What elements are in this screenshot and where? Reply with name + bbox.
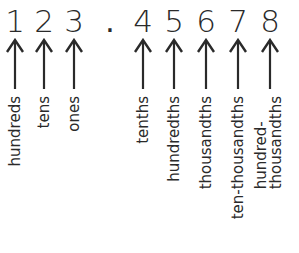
digit: 8 — [255, 4, 285, 38]
place-tenths: 4 tenths — [128, 0, 158, 253]
place-label-wrap: tenths — [128, 96, 158, 253]
digit: 1 — [0, 4, 30, 38]
place-label-wrap: ones — [59, 96, 89, 253]
place-label: hundredths — [167, 96, 182, 182]
up-arrow-icon — [64, 38, 84, 90]
up-arrow-icon — [34, 38, 54, 90]
place-hundredths: 5 hundredths — [159, 0, 189, 253]
digit: 6 — [191, 4, 221, 38]
place-label-wrap: tens — [29, 96, 59, 253]
up-arrow-icon — [196, 38, 216, 90]
digit: 7 — [223, 4, 253, 38]
up-arrow-icon — [133, 38, 153, 90]
digit: 3 — [59, 4, 89, 38]
place-label-wrap: hundredths — [159, 96, 189, 253]
decimal-point: . — [100, 4, 120, 38]
place-label: hundreds — [8, 96, 23, 166]
place-label-wrap: ten-thousandths — [223, 96, 253, 253]
up-arrow-icon — [228, 38, 248, 90]
place-label: hundred- thousandths — [254, 96, 284, 189]
digit: 5 — [159, 4, 189, 38]
place-hundreds: 1 hundreds — [0, 0, 30, 253]
up-arrow-icon — [260, 38, 280, 90]
place-label-wrap: hundred- thousandths — [255, 96, 285, 253]
place-label: thousandths — [199, 96, 214, 189]
place-tens: 2 tens — [29, 0, 59, 253]
place-thousandths: 6 thousandths — [191, 0, 221, 253]
digit: 2 — [29, 4, 59, 38]
place-label: tenths — [136, 96, 151, 144]
place-label: tens — [37, 96, 52, 128]
place-hundred-thousandths: 8 hundred- thousandths — [255, 0, 285, 253]
place-label: ten-thousandths — [231, 96, 246, 219]
up-arrow-icon — [164, 38, 184, 90]
place-label-wrap: thousandths — [191, 96, 221, 253]
place-ten-thousandths: 7 ten-thousandths — [223, 0, 253, 253]
up-arrow-icon — [5, 38, 25, 90]
digit: 4 — [128, 4, 158, 38]
place-ones: 3 ones — [59, 0, 89, 253]
place-label-wrap: hundreds — [0, 96, 30, 253]
place-label: ones — [67, 96, 82, 132]
